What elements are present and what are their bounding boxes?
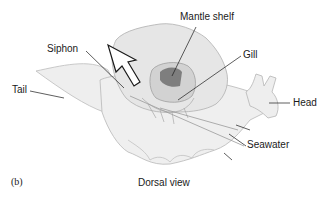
- label-siphon: Siphon: [47, 44, 78, 54]
- label-mantle-shelf: Mantle shelf: [180, 12, 234, 22]
- label-head: Head: [293, 98, 317, 108]
- label-seawater: Seawater: [247, 140, 289, 150]
- caption: Dorsal view: [138, 178, 190, 188]
- label-tail: Tail: [12, 85, 27, 95]
- panel-label: (b): [11, 177, 23, 187]
- label-gill: Gill: [243, 50, 257, 60]
- diagram: Mantle shelf Siphon Gill Tail Head Seawa…: [0, 0, 324, 201]
- leader-seawater-3: [224, 153, 232, 160]
- organism-illustration: [0, 0, 324, 201]
- leader-tail: [30, 91, 64, 98]
